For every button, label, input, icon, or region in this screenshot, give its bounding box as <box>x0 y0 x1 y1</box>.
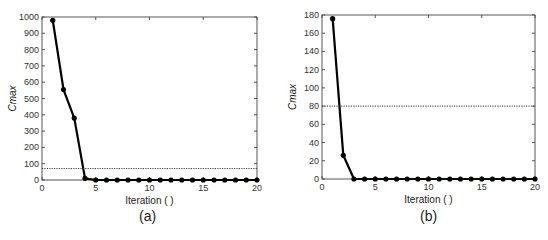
y-axis-title: Cmax <box>7 84 18 111</box>
y-tick-label: 200 <box>24 142 39 152</box>
y-tick-label: 0 <box>34 175 39 185</box>
data-marker <box>147 177 152 182</box>
data-marker <box>179 177 184 182</box>
x-tick-label: 0 <box>39 183 44 193</box>
chart-a-caption: (a) <box>139 208 156 224</box>
chart-b-plot: 02040608010012014016018005101520Iteratio… <box>274 0 548 200</box>
y-tick-label: 1000 <box>19 12 39 22</box>
data-marker <box>222 177 227 182</box>
y-tick-label: 600 <box>24 77 39 87</box>
data-marker <box>437 176 442 181</box>
y-tick-label: 500 <box>24 94 39 104</box>
x-tick-label: 5 <box>373 182 378 192</box>
data-line <box>333 19 535 179</box>
data-marker <box>490 176 495 181</box>
data-marker <box>479 176 484 181</box>
data-marker <box>254 177 259 182</box>
data-marker <box>458 176 463 181</box>
data-marker <box>447 176 452 181</box>
x-tick-label: 5 <box>93 183 98 193</box>
x-tick-label: 20 <box>252 183 262 193</box>
data-marker <box>50 18 55 23</box>
x-tick-label: 10 <box>144 183 154 193</box>
data-marker <box>394 176 399 181</box>
y-tick-label: 400 <box>24 110 39 120</box>
data-marker <box>469 176 474 181</box>
chart-a-plot: 0100200300400500600700800900100005101520… <box>0 0 274 200</box>
x-tick-label: 15 <box>477 182 487 192</box>
data-marker <box>500 176 505 181</box>
data-marker <box>115 177 120 182</box>
plot-frame <box>42 17 257 180</box>
data-marker <box>125 177 130 182</box>
y-tick-label: 700 <box>24 61 39 71</box>
data-marker <box>104 177 109 182</box>
data-marker <box>351 176 356 181</box>
data-marker <box>511 176 516 181</box>
y-tick-label: 120 <box>304 65 319 75</box>
data-marker <box>244 177 249 182</box>
y-tick-label: 80 <box>309 101 319 111</box>
y-tick-label: 100 <box>24 159 39 169</box>
y-tick-label: 0 <box>314 174 319 184</box>
y-tick-label: 100 <box>304 83 319 93</box>
x-tick-label: 0 <box>319 182 324 192</box>
y-tick-label: 160 <box>304 28 319 38</box>
data-marker <box>82 176 87 181</box>
y-tick-label: 60 <box>309 119 319 129</box>
chart-b-caption: (b) <box>420 208 437 224</box>
y-tick-label: 900 <box>24 28 39 38</box>
data-marker <box>168 177 173 182</box>
x-tick-label: 15 <box>198 183 208 193</box>
data-marker <box>362 176 367 181</box>
data-line <box>53 20 257 180</box>
data-marker <box>190 177 195 182</box>
data-marker <box>72 115 77 120</box>
chart-b: 02040608010012014016018005101520Iteratio… <box>274 0 548 240</box>
data-marker <box>93 177 98 182</box>
data-marker <box>61 87 66 92</box>
data-marker <box>158 177 163 182</box>
data-marker <box>405 176 410 181</box>
x-axis-title: Iteration ( ) <box>125 195 173 206</box>
y-tick-label: 140 <box>304 46 319 56</box>
data-marker <box>522 176 527 181</box>
chart-a: 0100200300400500600700800900100005101520… <box>0 0 274 240</box>
y-tick-label: 20 <box>309 156 319 166</box>
x-tick-label: 10 <box>423 182 433 192</box>
x-axis-title: Iteration ( ) <box>404 194 452 205</box>
x-tick-label: 20 <box>530 182 540 192</box>
data-marker <box>415 176 420 181</box>
data-marker <box>330 16 335 21</box>
data-marker <box>211 177 216 182</box>
data-marker <box>426 176 431 181</box>
data-marker <box>201 177 206 182</box>
y-tick-label: 180 <box>304 10 319 20</box>
y-tick-label: 40 <box>309 138 319 148</box>
data-marker <box>233 177 238 182</box>
y-tick-label: 300 <box>24 126 39 136</box>
y-tick-label: 800 <box>24 45 39 55</box>
data-marker <box>341 153 346 158</box>
data-marker <box>373 176 378 181</box>
plot-frame <box>322 15 535 179</box>
data-marker <box>383 176 388 181</box>
y-axis-title: Cmax <box>287 83 298 110</box>
data-marker <box>532 176 537 181</box>
data-marker <box>136 177 141 182</box>
